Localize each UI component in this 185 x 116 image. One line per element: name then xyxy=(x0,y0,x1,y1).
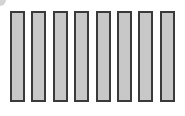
bar-8 xyxy=(160,11,175,102)
bar-7 xyxy=(138,11,153,102)
bar-6 xyxy=(117,11,132,102)
bar-group xyxy=(10,11,176,102)
bar-5 xyxy=(96,11,111,102)
bar-2 xyxy=(31,11,46,102)
bar-3 xyxy=(53,11,68,102)
bar-1 xyxy=(10,11,25,102)
corner-shape xyxy=(0,0,6,6)
bar-4 xyxy=(74,11,89,102)
